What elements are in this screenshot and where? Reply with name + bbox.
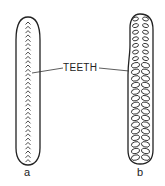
panel-a [16,17,40,165]
panel-b-outline [128,14,153,164]
panel-b-label: b [137,166,143,178]
teeth-label: TEETH [63,62,97,73]
oval-teeth [131,16,150,161]
panel-a-label: a [24,166,30,178]
leader-line-a [32,68,63,73]
diagram-svg [0,0,165,186]
chevron-teeth [26,22,31,162]
panel-b [128,14,153,164]
leader-line-b [99,68,129,71]
